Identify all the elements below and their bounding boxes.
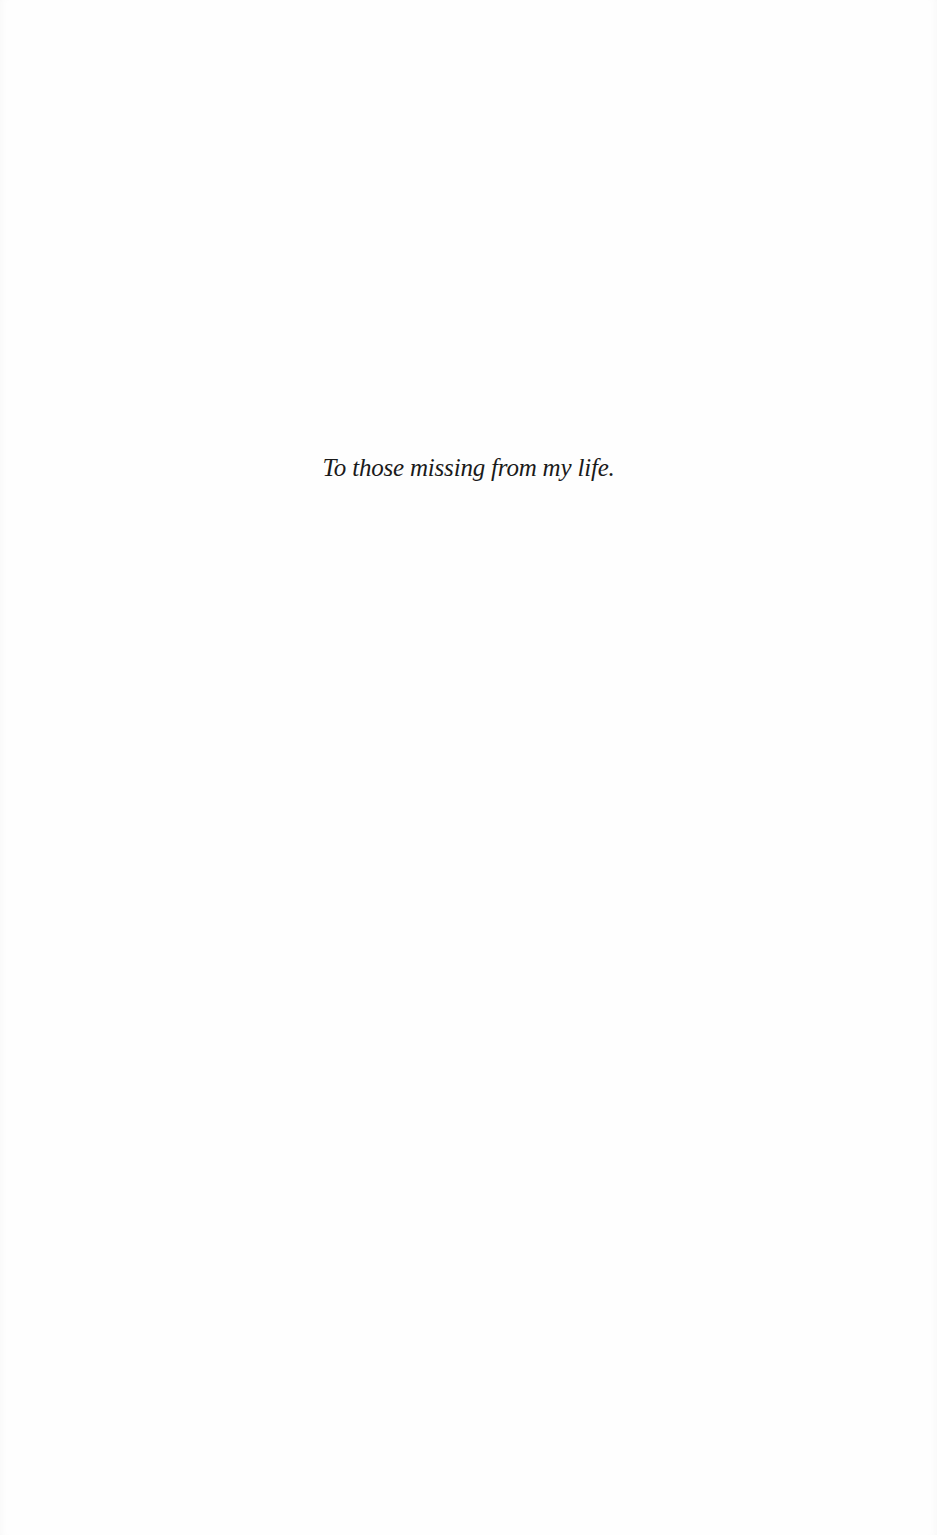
book-page: To those missing from my life.: [0, 0, 937, 1535]
dedication-text: To those missing from my life.: [0, 448, 937, 488]
